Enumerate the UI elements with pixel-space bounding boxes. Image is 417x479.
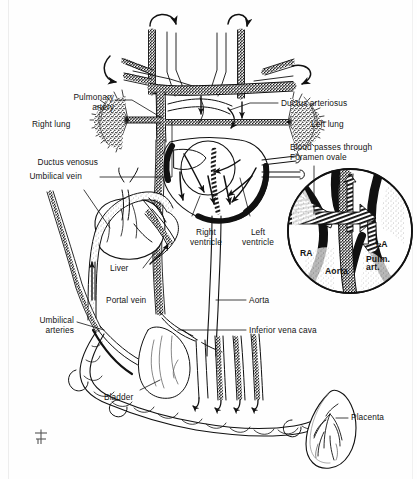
label-pulmonary-artery: Pulmonary artery	[18, 93, 114, 112]
label-left-lung: Left lung	[311, 120, 344, 130]
top-flow-arrows	[104, 14, 310, 84]
label-left-ventricle: Left ventricle	[236, 228, 280, 247]
label-umbilical-vein: Umbilical vein	[6, 172, 82, 182]
aortic-arch	[150, 82, 293, 96]
inset-label-ra: RA	[300, 249, 313, 259]
placenta	[306, 390, 356, 468]
label-liver: Liver	[110, 264, 128, 274]
fetal-circulation-figure: Pulmonary artery Right lung Ductus arter…	[0, 0, 417, 479]
label-umbilical-arteries: Umbilical arteries	[2, 316, 74, 335]
inset-label-la: LA	[376, 240, 388, 250]
label-portal-vein: Portal vein	[106, 296, 146, 306]
inset-label-pulm-art: Pulm. art.	[366, 255, 390, 272]
label-ductus-arteriosus: Ductus arteriosus	[281, 99, 347, 109]
label-ductus-venosus: Ductus venosus	[6, 158, 98, 168]
inset-label-aorta: Aorta	[325, 267, 348, 277]
heart	[161, 138, 304, 222]
foramen-ovale-inset	[288, 169, 412, 294]
label-right-ventricle: Right ventricle	[183, 228, 229, 247]
bladder	[138, 327, 190, 398]
label-foramen-ovale-note: Blood passes through Foramen ovale	[290, 143, 372, 162]
label-aorta: Aorta	[249, 296, 269, 306]
label-placenta: Placenta	[351, 413, 384, 423]
pulmonary-arteries-to-lungs	[126, 117, 288, 125]
iliac-umbilical-vessels	[193, 334, 263, 409]
label-inferior-vena-cava: Inferior vena cava	[249, 326, 317, 336]
label-bladder: Bladder	[104, 393, 133, 403]
artist-monogram-icon	[32, 428, 50, 446]
label-right-lung: Right lung	[32, 120, 70, 130]
